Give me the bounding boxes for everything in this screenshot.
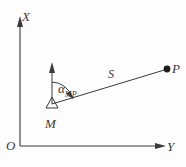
azimuth-angle-label: αMP bbox=[58, 82, 77, 99]
x-axis bbox=[17, 16, 23, 146]
x-axis-label: X bbox=[22, 10, 30, 23]
distance-label: S bbox=[108, 68, 114, 80]
azimuth-subscript: MP bbox=[65, 90, 77, 99]
diagram-canvas bbox=[0, 0, 186, 167]
azimuth-diagram: X Y O M P S αMP bbox=[0, 0, 186, 167]
meridian-arrowhead-icon bbox=[49, 62, 55, 73]
y-axis bbox=[20, 143, 166, 149]
azimuth-symbol: α bbox=[58, 81, 65, 96]
target-point-label: P bbox=[172, 62, 180, 75]
y-axis-label: Y bbox=[167, 140, 174, 153]
target-point-dot-icon bbox=[164, 66, 171, 73]
station-point-label: M bbox=[45, 117, 56, 130]
origin-label: O bbox=[6, 139, 15, 152]
y-axis-arrowhead-icon bbox=[155, 143, 166, 149]
